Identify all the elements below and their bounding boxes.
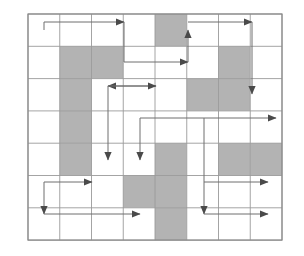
open-cell	[250, 79, 282, 111]
open-cell	[123, 111, 155, 143]
blocked-cell	[60, 46, 92, 78]
blocked-cell	[219, 79, 251, 111]
open-cell	[60, 176, 92, 208]
open-cell	[187, 46, 219, 78]
blocked-cell	[123, 176, 155, 208]
open-cell	[92, 111, 124, 143]
open-cell	[92, 208, 124, 240]
open-cell	[123, 143, 155, 175]
open-cell	[187, 176, 219, 208]
open-cell	[60, 208, 92, 240]
open-cell	[219, 111, 251, 143]
blocked-cell	[155, 143, 187, 175]
blocked-cell	[155, 208, 187, 240]
open-cell	[123, 208, 155, 240]
open-cell	[219, 14, 251, 46]
open-cell	[219, 176, 251, 208]
open-cell	[187, 143, 219, 175]
blocked-cell	[250, 143, 282, 175]
open-cell	[92, 176, 124, 208]
open-cell	[250, 46, 282, 78]
open-cell	[92, 143, 124, 175]
open-cell	[28, 14, 60, 46]
open-cell	[28, 79, 60, 111]
blocked-cell	[60, 79, 92, 111]
open-cell	[219, 208, 251, 240]
blocked-cell	[92, 46, 124, 78]
blocked-cell	[219, 143, 251, 175]
open-cell	[250, 111, 282, 143]
open-cell	[92, 79, 124, 111]
open-cell	[187, 208, 219, 240]
open-cell	[28, 143, 60, 175]
figure-root	[0, 0, 304, 256]
open-cell	[123, 14, 155, 46]
open-cell	[123, 79, 155, 111]
blocked-cell	[60, 111, 92, 143]
blocked-cell	[60, 143, 92, 175]
maze-diagram	[0, 0, 304, 256]
open-cell	[155, 111, 187, 143]
open-cell	[250, 176, 282, 208]
open-cell	[60, 14, 92, 46]
open-cell	[250, 14, 282, 46]
blocked-cell	[187, 79, 219, 111]
blocked-cell	[155, 176, 187, 208]
open-cell	[28, 46, 60, 78]
open-cell	[155, 79, 187, 111]
open-cell	[28, 111, 60, 143]
open-cell	[187, 14, 219, 46]
blocked-cell	[219, 46, 251, 78]
open-cell	[92, 14, 124, 46]
blocked-cell	[155, 14, 187, 46]
open-cell	[250, 208, 282, 240]
open-cell	[187, 111, 219, 143]
